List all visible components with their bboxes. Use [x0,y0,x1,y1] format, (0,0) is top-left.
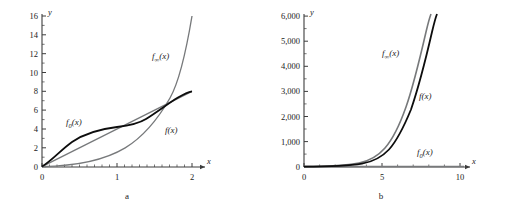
curve-f-b [304,14,437,167]
y-tick-label-a-10: 10 [30,68,39,78]
y-tick-label-b-4000: 4,000 [281,61,300,71]
y-axis-label-a: y [47,7,52,17]
chart-panel-a: 0 2 4 6 8 10 12 14 16 0 1 2 y x f∞(x) [0,0,254,204]
y-major-ticks-b [304,16,308,167]
y-tick-label-a-6: 6 [34,105,38,115]
curve-finf-b [304,14,431,167]
y-tick-label-b-1000: 1,000 [281,137,300,147]
x-axis-label-b: x [471,156,476,166]
panel-caption-b: b [254,191,508,201]
plot-a-svg: 0 2 4 6 8 10 12 14 16 0 1 2 y x f∞(x) [0,0,254,204]
y-tick-label-b-2000: 2,000 [281,112,300,122]
y-tick-label-a-16: 16 [30,11,39,21]
x-tick-label-a-2: 2 [190,172,194,182]
y-axis-label-b: y [309,7,314,17]
y-tick-label-b-0: 0 [296,162,300,172]
y-tick-label-a-2: 2 [34,143,38,153]
x-tick-label-b-10: 10 [456,172,465,182]
chart-panel-b: 0 1,000 2,000 3,000 4,000 5,000 6,000 0 … [254,0,508,204]
y-tick-label-b-6000: 6,000 [281,11,300,21]
plot-b-svg: 0 1,000 2,000 3,000 4,000 5,000 6,000 0 … [254,0,508,204]
curve-label-finf-a: f∞(x) [152,51,169,63]
y-tick-label-a-12: 12 [30,49,39,59]
curve-label-finf-b: f∞(x) [382,48,399,60]
curve-label-f0-b: f0(x) [417,147,433,159]
curve-finf-a [42,16,192,167]
x-tick-label-b-5: 5 [380,172,384,182]
panel-caption-a: a [0,191,254,201]
x-axis-label-a: x [206,156,211,166]
y-tick-label-a-14: 14 [30,30,39,40]
curve-label-f0-a: f0(x) [66,117,82,129]
y-tick-label-a-8: 8 [34,86,38,96]
y-tick-label-b-5000: 5,000 [281,36,300,46]
figure-container: 0 2 4 6 8 10 12 14 16 0 1 2 y x f∞(x) [0,0,508,204]
x-axis-arrow-a [200,165,205,170]
y-tick-label-a-4: 4 [34,124,39,134]
x-tick-label-b-0: 0 [302,172,306,182]
x-tick-label-a-1: 1 [115,172,119,182]
x-tick-label-a-0: 0 [40,172,44,182]
y-major-ticks-a [42,16,46,167]
y-tick-label-b-3000: 3,000 [281,86,300,96]
x-axis-arrow-b [465,165,470,170]
y-tick-label-a-0: 0 [34,162,38,172]
curve-label-f-b: f(x) [419,91,432,101]
curve-label-f-a: f(x) [165,125,178,135]
